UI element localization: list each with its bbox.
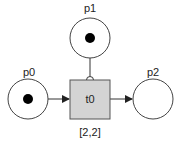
place-label-p2: p2 xyxy=(147,66,159,78)
transition-interval-t0: [2,2] xyxy=(79,126,100,138)
place-p0[interactable]: p0 xyxy=(8,66,48,119)
transition-label-t0: t0 xyxy=(85,93,94,105)
place-p1[interactable]: p1 xyxy=(70,2,110,58)
read-arc-semicircle-icon xyxy=(87,77,94,81)
place-label-p1: p1 xyxy=(84,2,96,14)
token-icon xyxy=(23,94,33,104)
petri-net-canvas: p1 p0 t0 [2,2] p2 xyxy=(0,0,180,147)
transition-t0[interactable]: t0 [2,2] xyxy=(70,80,110,138)
arc-p1-t0-read[interactable] xyxy=(87,58,94,80)
place-p2[interactable]: p2 xyxy=(133,66,173,119)
token-icon xyxy=(85,33,95,43)
place-label-p0: p0 xyxy=(23,66,35,78)
